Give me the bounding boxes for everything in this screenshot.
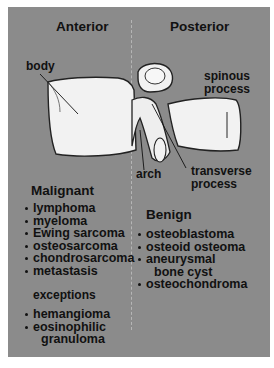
anterior-header: Anterior	[56, 20, 109, 33]
bullet-icon	[25, 257, 28, 260]
posterior-header: Posterior	[170, 20, 229, 33]
bullet-icon	[25, 220, 28, 223]
list-item: metastasis	[25, 265, 134, 278]
bullet-icon	[138, 246, 141, 249]
bullet-icon	[25, 326, 28, 329]
list-item: eosinophilicgranuloma	[25, 321, 110, 346]
benign-list: osteoblastoma osteoid osteoma aneurysmal…	[138, 228, 247, 291]
bullet-icon	[25, 207, 28, 210]
bullet-icon	[25, 232, 28, 235]
benign-title: Benign	[146, 208, 192, 221]
malignant-title: Malignant	[31, 184, 94, 197]
malignant-list: lymphoma myeloma Ewing sarcoma osteosarc…	[25, 202, 134, 277]
arch-label: arch	[136, 168, 161, 181]
list-item: osteochondroma	[138, 278, 247, 291]
bullet-icon	[25, 313, 28, 316]
body-label: body	[26, 60, 55, 73]
spinous-process-label-line2: process	[204, 83, 250, 96]
exceptions-title: exceptions	[33, 289, 96, 302]
bullet-icon	[25, 245, 28, 248]
list-item: aneurysmalbone cyst	[138, 253, 247, 278]
bullet-icon	[138, 233, 141, 236]
transverse-process-label-line2: process	[191, 178, 237, 191]
bullet-icon	[138, 258, 141, 261]
bullet-icon	[25, 270, 28, 273]
bullet-icon	[138, 283, 141, 286]
exceptions-list: hemangioma eosinophilicgranuloma	[25, 308, 110, 346]
